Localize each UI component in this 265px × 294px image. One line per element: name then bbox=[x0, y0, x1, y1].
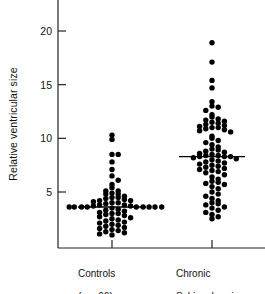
group-n-controls: (n = 66) bbox=[78, 291, 154, 294]
data-points-layer bbox=[67, 40, 240, 238]
data-point bbox=[197, 167, 202, 172]
data-point bbox=[203, 159, 208, 164]
plot-canvas bbox=[0, 0, 265, 294]
data-point bbox=[203, 194, 208, 199]
data-point bbox=[191, 155, 196, 160]
data-point bbox=[72, 204, 77, 209]
axis-layer bbox=[58, 0, 265, 248]
data-point bbox=[209, 200, 214, 205]
data-point bbox=[109, 159, 114, 164]
data-point bbox=[109, 200, 114, 205]
data-point bbox=[216, 208, 221, 213]
data-point bbox=[103, 212, 108, 217]
y-tick-label-15: 15 bbox=[30, 80, 52, 90]
data-point bbox=[109, 185, 114, 190]
data-point bbox=[203, 153, 208, 158]
data-point bbox=[116, 178, 121, 183]
y-tick-label-10: 10 bbox=[30, 133, 52, 143]
data-point bbox=[122, 197, 127, 202]
data-point bbox=[116, 200, 121, 205]
y-axis-tick-layer bbox=[58, 31, 66, 192]
data-point bbox=[109, 232, 114, 237]
data-point bbox=[209, 184, 214, 189]
data-point bbox=[116, 217, 121, 222]
data-point bbox=[209, 146, 214, 151]
group-tick-layer bbox=[112, 240, 212, 248]
data-point bbox=[216, 164, 221, 169]
data-point bbox=[222, 166, 227, 171]
data-point bbox=[152, 204, 157, 209]
data-point bbox=[109, 167, 114, 172]
data-point bbox=[209, 189, 214, 194]
data-point bbox=[209, 114, 214, 119]
group-label-schizophrenics-line1: Chronic bbox=[176, 268, 264, 280]
data-point bbox=[109, 216, 114, 221]
data-point bbox=[216, 105, 221, 110]
data-point bbox=[209, 163, 214, 168]
data-point bbox=[128, 203, 133, 208]
data-point bbox=[209, 136, 214, 141]
data-point bbox=[216, 153, 221, 158]
data-point bbox=[216, 186, 221, 191]
data-point bbox=[209, 78, 214, 83]
data-point bbox=[103, 201, 108, 206]
data-point bbox=[216, 158, 221, 163]
data-point bbox=[122, 213, 127, 218]
data-point bbox=[109, 195, 114, 200]
data-point bbox=[122, 230, 127, 235]
data-point bbox=[216, 138, 221, 143]
data-point bbox=[197, 128, 202, 133]
data-point bbox=[209, 168, 214, 173]
dot-plot-figure: Relative ventricular size 5101520 Contro… bbox=[0, 0, 265, 294]
data-point bbox=[103, 196, 108, 201]
data-point bbox=[109, 152, 114, 157]
data-point bbox=[209, 85, 214, 90]
data-point bbox=[122, 219, 127, 224]
data-point bbox=[203, 108, 208, 113]
data-point bbox=[197, 161, 202, 166]
group-label-schizophrenics-line2: Schizophrenics bbox=[176, 291, 264, 294]
data-point bbox=[159, 204, 164, 209]
data-point bbox=[97, 231, 102, 236]
data-point bbox=[128, 215, 133, 220]
data-point bbox=[216, 169, 221, 174]
data-point bbox=[122, 225, 127, 230]
data-point bbox=[116, 195, 121, 200]
data-point bbox=[209, 40, 214, 45]
data-point bbox=[116, 152, 121, 157]
data-point bbox=[222, 182, 227, 187]
data-point bbox=[203, 210, 208, 215]
data-point bbox=[222, 204, 227, 209]
data-point bbox=[97, 226, 102, 231]
data-point bbox=[209, 205, 214, 210]
data-point bbox=[209, 103, 214, 108]
data-point bbox=[116, 228, 121, 233]
data-point bbox=[109, 211, 114, 216]
data-point bbox=[216, 214, 221, 219]
data-point bbox=[67, 204, 72, 209]
data-point bbox=[209, 120, 214, 125]
data-point bbox=[109, 205, 114, 210]
data-point bbox=[103, 229, 108, 234]
data-point bbox=[216, 125, 221, 130]
data-point bbox=[103, 224, 108, 229]
data-point bbox=[116, 211, 121, 216]
data-point bbox=[109, 227, 114, 232]
data-point bbox=[203, 140, 208, 145]
data-point bbox=[109, 222, 114, 227]
data-point bbox=[203, 165, 208, 170]
group-caption-schizophrenics: Chronic Schizophrenics (n = 80) bbox=[176, 256, 264, 294]
y-tick-label-20: 20 bbox=[30, 26, 52, 36]
data-point bbox=[216, 180, 221, 185]
data-point bbox=[209, 157, 214, 162]
data-point bbox=[222, 127, 227, 132]
data-point bbox=[109, 137, 114, 142]
data-point bbox=[209, 125, 214, 130]
data-point bbox=[228, 129, 233, 134]
data-point bbox=[97, 214, 102, 219]
data-point bbox=[109, 173, 114, 178]
group-caption-controls: Controls (n = 66) bbox=[78, 256, 154, 294]
data-point bbox=[216, 201, 221, 206]
data-point bbox=[203, 202, 208, 207]
data-point bbox=[209, 216, 214, 221]
